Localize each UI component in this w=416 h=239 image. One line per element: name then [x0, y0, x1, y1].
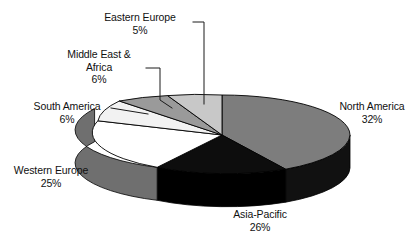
- label-western-europe-value: 25%: [5, 177, 97, 190]
- label-western-europe-name: Western Europe: [5, 164, 97, 177]
- label-north-america-name: North America: [330, 100, 414, 113]
- label-eastern-europe-value: 5%: [84, 24, 196, 37]
- label-north-america-value: 32%: [330, 113, 414, 126]
- label-western-europe: Western Europe 25%: [5, 164, 97, 189]
- label-asia-pacific-name: Asia-Pacific: [218, 208, 302, 221]
- label-north-america: North America 32%: [330, 100, 414, 125]
- label-middle-east-africa-name-line2: Africa: [52, 61, 146, 74]
- label-asia-pacific: Asia-Pacific 26%: [218, 208, 302, 233]
- label-middle-east-africa-value: 6%: [52, 73, 146, 86]
- label-south-america: South America 6%: [25, 100, 109, 125]
- pie-3d-body: [75, 94, 350, 206]
- label-middle-east-africa: Middle East & Africa 6%: [52, 48, 146, 86]
- label-eastern-europe-name: Eastern Europe: [84, 11, 196, 24]
- label-middle-east-africa-name-line1: Middle East &: [52, 48, 146, 61]
- label-asia-pacific-value: 26%: [218, 221, 302, 234]
- pie-chart-figure: Eastern Europe 5% Middle East & Africa 6…: [0, 0, 416, 239]
- label-south-america-name: South America: [25, 100, 109, 113]
- label-eastern-europe: Eastern Europe 5%: [84, 11, 196, 36]
- label-south-america-value: 6%: [25, 113, 109, 126]
